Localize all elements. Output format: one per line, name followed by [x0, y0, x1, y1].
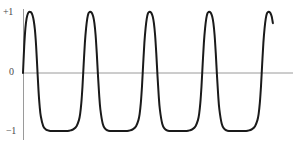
waveform-curve [23, 12, 273, 131]
waveform-figure: +1 0 −1 [0, 0, 299, 146]
y-tick-label-plus-one: +1 [3, 7, 13, 17]
y-tick-label-zero: 0 [9, 67, 14, 77]
y-tick-label-minus-one: −1 [6, 126, 16, 136]
plot-canvas [0, 0, 299, 146]
